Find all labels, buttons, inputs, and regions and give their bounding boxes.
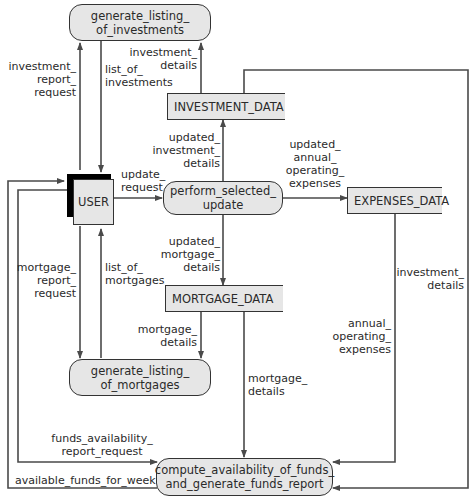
process-generate-listing-of-investments[interactable]: generate_listing_ of_investments: [69, 4, 211, 41]
flow-label-mortgage-report-request: mortgage_ report_ request: [17, 261, 76, 300]
datastore-label: EXPENSES_DATA: [354, 194, 449, 208]
datastore-label: INVESTMENT_DATA: [174, 100, 284, 114]
datastore-expenses-data[interactable]: EXPENSES_DATA: [347, 187, 442, 214]
process-compute-availability-of-funds[interactable]: compute_availability_of_funds_ and_gener…: [156, 458, 333, 496]
flow-label-mortgage-details-left: mortgage_ details: [138, 323, 197, 349]
datastore-label: MORTGAGE_DATA: [172, 292, 273, 306]
process-perform-selected-update[interactable]: perform_selected_ update: [163, 181, 283, 215]
entity-label: USER: [78, 195, 109, 209]
process-label: generate_listing_ of_investments: [91, 9, 189, 37]
datastore-investment-data[interactable]: INVESTMENT_DATA: [167, 93, 285, 120]
flow-label-funds-availability-report-request: funds_availability_ report_request: [42, 432, 162, 458]
flow-label-mortgage-details-bottom: mortgage_ details: [248, 372, 307, 398]
process-label: generate_listing_ of_mortgages: [91, 364, 189, 392]
flow-label-investment-details-top: investment_ details: [129, 46, 197, 72]
flow-label-update-request: update_ request: [121, 168, 165, 194]
user-entity[interactable]: USER: [73, 179, 114, 225]
flow-label-updated-investment-details: updated_ investment_ details: [152, 131, 220, 170]
process-label: compute_availability_of_funds_ and_gener…: [155, 463, 334, 491]
flow-label-available-funds-for-week: available_funds_for_week: [15, 474, 156, 487]
flow-label-annual-operating-expenses: annual_ operating_ expenses: [332, 317, 391, 356]
process-label: perform_selected_ update: [170, 184, 276, 212]
flow-label-investment-report-request: investment_ report_ request: [8, 60, 76, 99]
flow-label-investment-details-right: investment_ details: [396, 266, 464, 292]
flow-label-updated-mortgage-details: updated_ mortgage_ details: [161, 235, 220, 274]
datastore-mortgage-data[interactable]: MORTGAGE_DATA: [165, 285, 283, 312]
flow-label-list-of-mortgages: list_of_ mortgages: [105, 261, 165, 287]
flow-label-updated-annual-operating-expenses: updated_ annual_ operating_ expenses: [285, 138, 345, 190]
process-generate-listing-of-mortgages[interactable]: generate_listing_ of_mortgages: [69, 359, 211, 396]
